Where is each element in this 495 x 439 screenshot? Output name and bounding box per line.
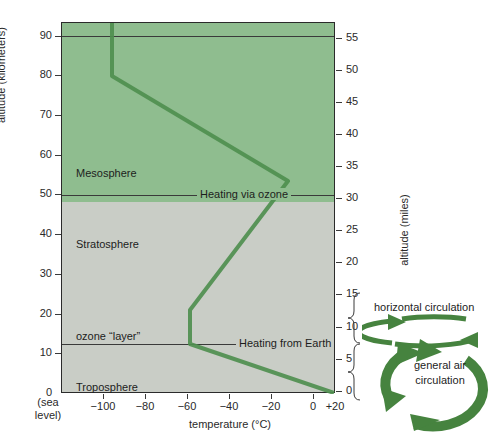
gac-line2: circulation bbox=[392, 373, 488, 388]
arrowhead-left bbox=[388, 314, 406, 330]
tick-bottom-neg80 bbox=[145, 394, 146, 399]
ticklabel-right-40: 40 bbox=[346, 127, 376, 139]
ticklabel-left-10: 10 bbox=[18, 346, 52, 358]
label-general-air-circulation: general air circulation bbox=[392, 358, 488, 388]
ticklabel-left-40: 40 bbox=[18, 227, 52, 239]
tick-left-20 bbox=[55, 314, 61, 315]
ticklabel-right-10: 10 bbox=[346, 320, 376, 332]
ticklabel-right-20: 20 bbox=[346, 255, 376, 267]
sea-level-note: (sea level) bbox=[28, 396, 68, 422]
tick-right-55 bbox=[336, 38, 342, 39]
tick-right-20 bbox=[336, 262, 342, 263]
label-ozone-layer: ozone “layer” bbox=[76, 330, 140, 342]
tick-left-40 bbox=[55, 234, 61, 235]
tick-right-15 bbox=[336, 294, 342, 295]
hline-90km bbox=[62, 36, 334, 37]
ticklabel-left-30: 30 bbox=[18, 267, 52, 279]
ticklabel-left-80: 80 bbox=[18, 68, 52, 80]
tick-left-10 bbox=[55, 353, 61, 354]
arrowhead-bottom-right bbox=[410, 414, 440, 431]
ticklabel-left-60: 60 bbox=[18, 148, 52, 160]
ticklabel-right-35: 35 bbox=[346, 159, 376, 171]
tick-left-90 bbox=[55, 36, 61, 37]
tick-right-10 bbox=[336, 327, 342, 328]
ticklabel-right-15: 15 bbox=[346, 287, 376, 299]
gac-line1: general air bbox=[392, 358, 488, 373]
tick-left-70 bbox=[55, 115, 61, 116]
ticklabel-left-70: 70 bbox=[18, 108, 52, 120]
brace-horizontal-circulation bbox=[348, 293, 360, 343]
tick-bottom-neg20 bbox=[271, 394, 272, 399]
bottom-axis-title: temperature (°C) bbox=[140, 418, 320, 430]
tick-right-35 bbox=[336, 166, 342, 167]
ticklabel-left-20: 20 bbox=[18, 307, 52, 319]
tick-right-30 bbox=[336, 198, 342, 199]
chart-figure: Mesosphere Stratosphere ozone “layer” Tr… bbox=[0, 0, 495, 439]
ticklabel-right-50: 50 bbox=[346, 63, 376, 75]
tick-bottom-neg60 bbox=[187, 394, 188, 399]
arrowhead-bottom bbox=[382, 388, 406, 412]
arrowhead-right bbox=[460, 332, 478, 348]
tick-right-5 bbox=[336, 359, 342, 360]
tick-bottom-neg100 bbox=[103, 394, 104, 399]
tick-left-30 bbox=[55, 274, 61, 275]
ticklabel-bottom-pos20: +20 bbox=[310, 400, 360, 412]
tick-left-60 bbox=[55, 155, 61, 156]
tick-bottom-0 bbox=[313, 394, 314, 399]
tick-left-80 bbox=[55, 75, 61, 76]
tick-right-50 bbox=[336, 70, 342, 71]
right-axis-title: altitude (miles) bbox=[398, 170, 410, 290]
left-axis-title: altitude (kilometers) bbox=[0, 0, 7, 150]
tick-bottom-neg40 bbox=[229, 394, 230, 399]
label-mesosphere: Mesosphere bbox=[76, 167, 137, 179]
tick-right-45 bbox=[336, 102, 342, 103]
tick-right-40 bbox=[336, 134, 342, 135]
callout-heating-from-earth: Heating from Earth bbox=[236, 337, 334, 349]
horizontal-circulation-arrow bbox=[362, 312, 494, 352]
callout-heating-via-ozone: Heating via ozone bbox=[197, 188, 291, 200]
label-horizontal-circulation: horizontal circulation bbox=[374, 301, 474, 313]
tick-right-25 bbox=[336, 230, 342, 231]
tick-left-50 bbox=[55, 194, 61, 195]
ticklabel-right-30: 30 bbox=[346, 191, 376, 203]
label-stratosphere: Stratosphere bbox=[76, 238, 139, 250]
ticklabel-left-90: 90 bbox=[18, 29, 52, 41]
ticklabel-right-25: 25 bbox=[346, 223, 376, 235]
ticklabel-right-45: 45 bbox=[346, 95, 376, 107]
ticklabel-right-0: 0 bbox=[346, 384, 376, 396]
tick-right-0 bbox=[336, 391, 342, 392]
label-troposphere: Troposphere bbox=[76, 381, 138, 393]
sea-level-line1: (sea bbox=[28, 396, 68, 409]
ticklabel-right-55: 55 bbox=[346, 31, 376, 43]
sea-level-line2: level) bbox=[28, 409, 68, 422]
plot-area: Mesosphere Stratosphere ozone “layer” Tr… bbox=[61, 22, 335, 393]
ticklabel-left-50: 50 bbox=[18, 187, 52, 199]
ticklabel-right-5: 5 bbox=[346, 352, 376, 364]
